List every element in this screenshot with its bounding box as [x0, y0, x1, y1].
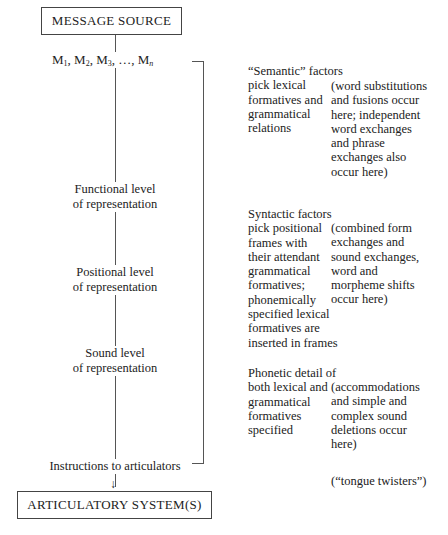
semantic-factors-text: “Semantic” factors pick lexical formativ…	[248, 64, 343, 135]
message-source-label: MESSAGE SOURCE	[52, 13, 171, 28]
syntactic-errors-text: (combined form exchanges and sound excha…	[331, 221, 419, 307]
tongue-twisters-text: (“tongue twisters”)	[331, 474, 426, 488]
message-source-box: MESSAGE SOURCE	[41, 7, 182, 35]
down-arrow-icon: ↓	[110, 478, 116, 490]
phonetic-errors-text: (accommodations and simple and complex s…	[331, 380, 420, 451]
phonetic-factors-text: Phonetic detail of both lexical and gram…	[248, 366, 336, 437]
sound-level-label: Sound levelof representation	[40, 346, 190, 376]
bracket-spine	[203, 61, 204, 464]
articulatory-system-label: ARTICULATORY SYSTEM(S)	[27, 497, 201, 512]
flow-line	[115, 35, 116, 475]
positional-level-label: Positional levelof representation	[40, 265, 190, 295]
articulatory-system-box: ARTICULATORY SYSTEM(S)	[17, 491, 212, 519]
semantic-errors-text: (word substitutions and fusions occur he…	[331, 79, 427, 179]
functional-level-label: Functional levelof representation	[40, 182, 190, 212]
bracket-bottom	[192, 463, 204, 464]
instructions-label: Instructions to articulators	[30, 459, 200, 474]
message-list: M1, M2, M3, …, Mn	[50, 52, 155, 68]
syntactic-factors-text: Syntactic factors pick positional frames…	[248, 207, 338, 350]
